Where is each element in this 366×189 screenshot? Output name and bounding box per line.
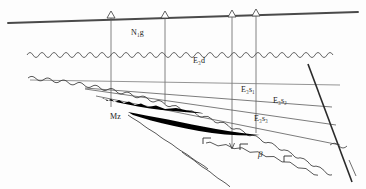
horizon-e3s3-base	[85, 89, 336, 125]
cross-section-canvas	[0, 0, 366, 189]
horizon-e3s2-base	[85, 88, 332, 107]
stratum-label-mz: Mz	[110, 113, 121, 121]
fault-right	[308, 64, 356, 182]
horizon-unconformity-upper	[27, 53, 333, 58]
horizon-e3s1-base	[30, 80, 340, 85]
volcanic-label-beta: β	[258, 150, 263, 159]
horizon-ground-surface	[8, 12, 358, 23]
volcanic-bracket-symbols	[203, 138, 292, 162]
geological-cross-section-figure: N₁g E₃d E₃s₁ E₃s₂ E₃s₃ Mz β	[0, 0, 366, 189]
horizon-basal-wavy	[182, 152, 230, 187]
stratum-label-e3s3: E₃s₃	[254, 115, 268, 123]
stratum-label-e3s2: E₃s₂	[273, 97, 287, 105]
stratum-label-ng: N₁g	[131, 29, 144, 37]
stratum-label-e3d: E₃d	[193, 57, 205, 65]
stratum-label-e3s1: E₃s₁	[241, 86, 255, 94]
